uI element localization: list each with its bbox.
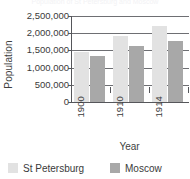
legend-item[interactable]: St Petersburg <box>8 161 84 175</box>
gridline <box>72 16 189 17</box>
population-bar-chart: Population of St Petersburg and Moscow P… <box>0 0 190 179</box>
legend-label: St Petersburg <box>23 163 84 174</box>
x-tick-mark <box>149 87 150 93</box>
bar <box>90 56 105 102</box>
x-axis-line <box>71 102 189 103</box>
y-tick-label: 2,500,000 <box>14 11 69 21</box>
y-tick-label: 1,000,000 <box>14 63 69 73</box>
bar <box>129 46 144 102</box>
legend-label: Moscow <box>125 163 162 174</box>
y-tick-label: 2,000,000 <box>14 28 69 38</box>
y-axis-title: Population <box>1 18 15 110</box>
y-axis-tick-labels: 2,500,0002,000,0001,500,0001,000,000500,… <box>14 16 69 102</box>
y-tick-label: 1,500,000 <box>14 45 69 55</box>
bar <box>113 36 128 102</box>
x-tick-mark <box>71 87 72 93</box>
legend-swatch <box>110 163 120 173</box>
y-tick-label: 0 <box>14 97 69 107</box>
legend-item[interactable]: Moscow <box>110 161 162 175</box>
y-tick-label: 500,000 <box>14 80 69 90</box>
plot-inner <box>72 16 189 102</box>
x-axis-title: Year <box>71 141 188 152</box>
bar <box>168 41 183 102</box>
x-tick-mark <box>110 87 111 93</box>
x-tick-label: 1914 <box>153 96 164 118</box>
chart-title: Population of St Petersburg and Moscow <box>0 0 190 6</box>
x-tick-mark <box>188 87 189 93</box>
legend-swatch <box>8 163 18 173</box>
bar <box>152 26 167 102</box>
plot-area <box>71 16 189 102</box>
x-tick-label: 1900 <box>75 96 86 118</box>
x-tick-label: 1910 <box>114 96 125 118</box>
chart-legend: St PetersburgMoscow <box>0 160 190 175</box>
bar <box>74 52 89 102</box>
y-axis-title-label: Population <box>3 40 14 88</box>
gridline <box>72 33 189 34</box>
